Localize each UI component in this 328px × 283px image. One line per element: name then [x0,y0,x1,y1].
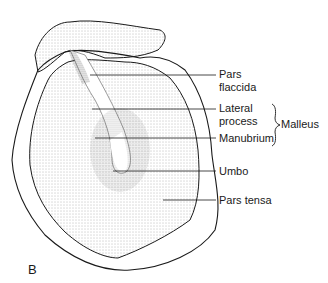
label-lateral-process: Lateral process [219,102,258,128]
label-line: Pars tensa [219,194,272,207]
label-line: Manubrium [219,132,274,145]
label-pars-flaccida: Pars flaccida [219,68,256,94]
label-line: Pars [219,68,256,81]
label-malleus: Malleus [281,118,319,131]
label-pars-tensa: Pars tensa [219,194,272,207]
label-umbo: Umbo [219,165,248,178]
label-manubrium: Manubrium [219,132,274,145]
label-line: flaccida [219,81,256,94]
figure-label: B [28,262,37,277]
label-line: Umbo [219,165,248,178]
label-line: Lateral [219,102,258,115]
label-line: process [219,115,258,128]
tympanic-membrane-drawing [0,0,328,283]
